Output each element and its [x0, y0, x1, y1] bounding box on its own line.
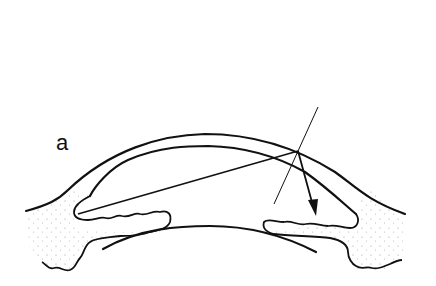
left-sclera-region	[26, 188, 168, 271]
arrowhead-icon	[308, 199, 318, 216]
eye-diagram	[0, 0, 436, 286]
ray-line-angle	[78, 151, 298, 214]
right-sclera-region	[265, 188, 405, 273]
